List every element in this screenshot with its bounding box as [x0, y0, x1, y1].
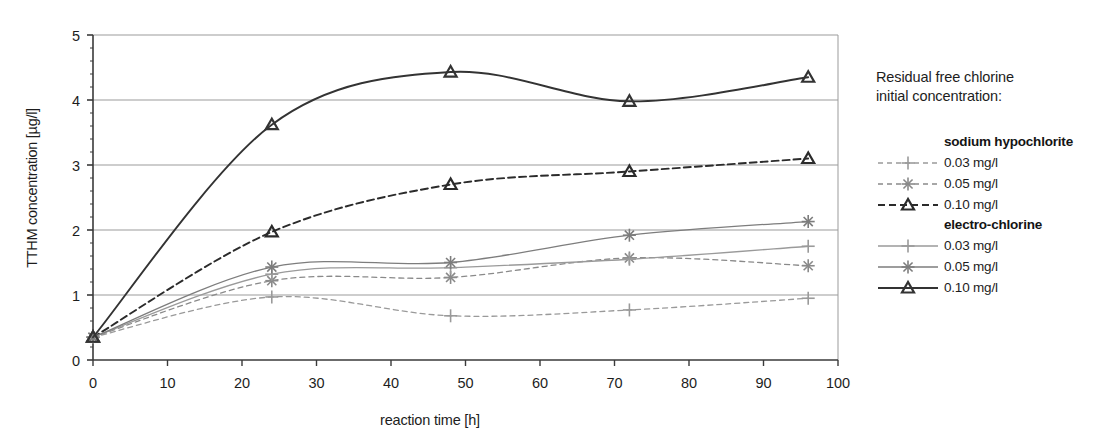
x-axis-tick-label: 50 [457, 375, 473, 391]
legend-entries: sodium hypochlorite0.03 mg/l0.05 mg/l0.1… [876, 132, 1112, 298]
data-point-marker-asterisk [265, 261, 278, 274]
legend-item-label: 0.05 mg/l [944, 259, 998, 274]
y-axis-tick-label: 2 [72, 223, 80, 239]
data-point-marker-asterisk [444, 256, 457, 269]
y-axis-title: TTHM concentration [µg/l] [24, 38, 40, 338]
data-point-marker-asterisk [623, 229, 636, 242]
x-axis-tick-label: 100 [826, 375, 850, 391]
data-point-marker-asterisk [902, 260, 915, 273]
x-axis-tick-label: 20 [234, 375, 250, 391]
legend-item[interactable]: 0.03 mg/l [876, 152, 1112, 173]
x-axis-tick-label: 90 [755, 375, 771, 391]
legend-swatch [876, 258, 940, 276]
legend-swatch [876, 196, 940, 214]
data-point-marker-plus [444, 309, 457, 322]
x-axis-tick-label: 10 [159, 375, 175, 391]
data-point-marker-plus [623, 253, 636, 266]
data-point-marker-plus [802, 240, 815, 253]
legend-group-label: sodium hypochlorite [944, 132, 1112, 152]
data-point-marker-plus [265, 290, 278, 303]
x-axis-tick-label: 0 [89, 375, 97, 391]
legend-swatch [876, 279, 940, 297]
legend-swatch [876, 175, 940, 193]
data-point-marker-plus [802, 292, 815, 305]
data-point-marker-asterisk [802, 259, 815, 272]
y-axis-tick-label: 0 [72, 353, 80, 369]
line-chart-plot-area: 0123450102030405060708090100 [0, 0, 880, 410]
legend-item[interactable]: 0.05 mg/l [876, 173, 1112, 194]
triangle-marker [902, 199, 914, 210]
y-axis-tick-label: 4 [72, 93, 80, 109]
legend-item-label: 0.03 mg/l [944, 155, 998, 170]
legend-item[interactable]: 0.05 mg/l [876, 256, 1112, 277]
data-point-marker-plus [902, 156, 915, 169]
legend-item-label: 0.10 mg/l [944, 280, 998, 295]
legend-item[interactable]: 0.03 mg/l [876, 235, 1112, 256]
data-point-marker-plus [902, 239, 915, 252]
legend-item-label: 0.03 mg/l [944, 238, 998, 253]
x-axis-tick-label: 80 [681, 375, 697, 391]
y-axis-tick-label: 3 [72, 158, 80, 174]
x-axis-tick-label: 70 [606, 375, 622, 391]
x-axis-title: reaction time [h] [0, 412, 860, 428]
legend-group-label: electro-chlorine [944, 215, 1112, 235]
legend-swatch [876, 154, 940, 172]
data-point-marker-triangle [266, 226, 278, 237]
series-line [93, 72, 808, 338]
legend-swatch [876, 237, 940, 255]
legend-item[interactable]: 0.10 mg/l [876, 277, 1112, 298]
triangle-marker [445, 179, 457, 190]
y-axis-tick-label: 1 [72, 288, 80, 304]
legend-item[interactable]: 0.10 mg/l [876, 194, 1112, 215]
legend-title: Residual free chlorine initial concentra… [876, 68, 1112, 106]
data-point-marker-asterisk [902, 177, 915, 190]
chart-legend: Residual free chlorine initial concentra… [876, 68, 1112, 298]
data-point-marker-triangle [902, 199, 914, 210]
x-axis-tick-label: 60 [532, 375, 548, 391]
series-0 [87, 290, 815, 343]
x-axis-tick-label: 40 [383, 375, 399, 391]
x-axis-tick-label: 30 [308, 375, 324, 391]
data-point-marker-asterisk [802, 215, 815, 228]
data-point-marker-triangle [445, 179, 457, 190]
legend-item-label: 0.10 mg/l [944, 197, 998, 212]
triangle-marker [266, 226, 278, 237]
legend-item-label: 0.05 mg/l [944, 176, 998, 191]
chart-figure: 0123450102030405060708090100 reaction ti… [0, 0, 1118, 445]
data-point-marker-plus [623, 303, 636, 316]
y-axis-tick-label: 5 [72, 28, 80, 44]
